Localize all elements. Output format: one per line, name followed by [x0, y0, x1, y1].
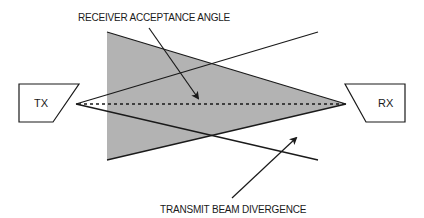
transmitter-label: TX	[34, 97, 49, 109]
optical-link-diagram: TX RX RECEIVER ACCEPTANCE ANGLE TRANSMIT…	[0, 0, 424, 218]
receiver-acceptance-label: RECEIVER ACCEPTANCE ANGLE	[78, 12, 231, 23]
transmitter-box	[19, 84, 79, 122]
receiver-box	[345, 84, 405, 122]
receiver-acceptance-cone	[107, 32, 346, 160]
receiver-label: RX	[378, 97, 394, 109]
transmit-divergence-label: TRANSMIT BEAM DIVERGENCE	[160, 204, 307, 215]
